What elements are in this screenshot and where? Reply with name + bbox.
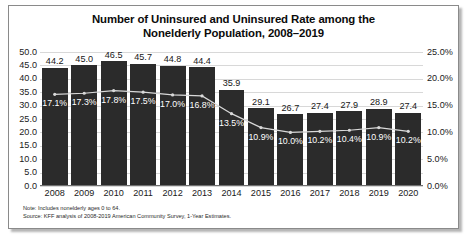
- x-axis-tick-2019: 2019: [364, 188, 393, 198]
- x-axis-tick-2018: 2018: [335, 188, 364, 198]
- x-axis-tick-2014: 2014: [217, 188, 246, 198]
- chart-title: Number of Uninsured and Uninsured Rate a…: [9, 12, 458, 40]
- rate-line-marker[interactable]: [112, 89, 115, 92]
- rate-line-marker[interactable]: [318, 130, 321, 133]
- y-axis-right: 0.0%5.0%10.0%15.0%20.0%25.0%: [427, 52, 463, 186]
- rate-line-marker[interactable]: [53, 93, 56, 96]
- footnote-note: Note: Includes nonelderly ages 0 to 64.: [23, 205, 443, 213]
- y-axis-right-tick: 0.0%: [427, 182, 448, 191]
- x-axis-labels: 2008200920102011201220132014201520162017…: [40, 188, 423, 202]
- x-axis-tick-2020: 2020: [394, 188, 423, 198]
- rate-line-marker[interactable]: [289, 131, 292, 134]
- x-axis-tick-2013: 2013: [187, 188, 216, 198]
- x-axis-tick-2012: 2012: [158, 188, 187, 198]
- y-axis-right-tick: 5.0%: [427, 155, 448, 164]
- rate-line-marker[interactable]: [142, 91, 145, 94]
- y-axis-right-tick: 15.0%: [427, 101, 453, 110]
- gridline: [40, 186, 423, 187]
- rate-line-path: [55, 91, 409, 133]
- rate-line-marker[interactable]: [83, 92, 86, 95]
- x-axis-tick-2008: 2008: [40, 188, 69, 198]
- y-axis-left-tick: 25.0: [19, 115, 37, 124]
- rate-line-marker[interactable]: [200, 94, 203, 97]
- rate-line-marker[interactable]: [171, 93, 174, 96]
- rate-line-marker[interactable]: [230, 112, 233, 115]
- x-axis-tick-2009: 2009: [69, 188, 98, 198]
- y-axis-left-tick: 5.0: [24, 168, 37, 177]
- rate-line-marker[interactable]: [259, 126, 262, 129]
- footnotes: Note: Includes nonelderly ages 0 to 64. …: [23, 205, 443, 220]
- y-axis-left: 0.05.010.015.020.025.030.035.040.045.050…: [9, 52, 37, 186]
- y-axis-right-tick: 25.0%: [427, 48, 453, 57]
- y-axis-left-tick: 30.0: [19, 101, 37, 110]
- x-axis-tick-2010: 2010: [99, 188, 128, 198]
- y-axis-left-tick: 10.0: [19, 155, 37, 164]
- y-axis-left-tick: 20.0: [19, 128, 37, 137]
- y-axis-left-tick: 40.0: [19, 74, 37, 83]
- chart-title-line-2: Nonelderly Population, 2008–2019: [9, 26, 458, 40]
- y-axis-right-tick: 20.0%: [427, 74, 453, 83]
- x-axis-tick-2015: 2015: [246, 188, 275, 198]
- uninsured-rate-line: [40, 52, 423, 186]
- x-axis-tick-2016: 2016: [276, 188, 305, 198]
- x-axis-tick-2017: 2017: [305, 188, 334, 198]
- x-axis-tick-2011: 2011: [128, 188, 157, 198]
- y-axis-left-tick: 15.0: [19, 141, 37, 150]
- y-axis-left-tick: 45.0: [19, 61, 37, 70]
- chart-figure-frame: Number of Uninsured and Uninsured Rate a…: [8, 5, 459, 229]
- y-axis-left-tick: 35.0: [19, 88, 37, 97]
- x-axis-baseline: [40, 185, 423, 186]
- rate-line-marker[interactable]: [348, 129, 351, 132]
- rate-line-marker[interactable]: [377, 126, 380, 129]
- y-axis-left-tick: 0.0: [24, 182, 37, 191]
- chart-title-line-1: Number of Uninsured and Uninsured Rate a…: [9, 12, 458, 26]
- rate-line-marker[interactable]: [407, 130, 410, 133]
- footnote-source: Source: KFF analysis of 2008-2019 Americ…: [23, 213, 443, 221]
- y-axis-left-tick: 50.0: [19, 48, 37, 57]
- plot-area: 44.217.1%45.017.3%46.517.8%45.717.5%44.8…: [40, 52, 423, 186]
- y-axis-right-tick: 10.0%: [427, 128, 453, 137]
